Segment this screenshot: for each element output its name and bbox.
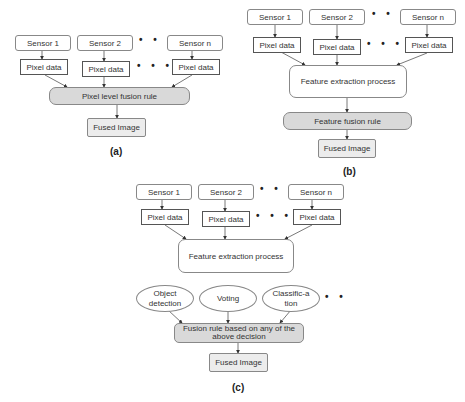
process-label: Feature extraction process	[301, 77, 396, 86]
sensor-label: Sensor 2	[210, 188, 242, 197]
ellipsis-dots: • • •	[137, 60, 173, 71]
pixel-level-fusion-rule-box: Pixel level fusion rule	[49, 87, 190, 105]
feature-fusion-rule-box: Feature fusion rule	[283, 112, 412, 130]
sensor-2-box: Sensor 2	[309, 9, 365, 25]
sensor-2-box: Sensor 2	[198, 184, 254, 200]
sensor-label: Sensor 1	[259, 13, 291, 22]
pixel-data-2-box: Pixel data	[313, 39, 361, 55]
sensor-label: Sensor 1	[27, 39, 59, 48]
pixel-data-1-box: Pixel data	[253, 37, 301, 53]
fusion-rule-label: Fusion rule based on any of the above de…	[179, 325, 299, 342]
ellipsis-dots: • • •	[256, 210, 292, 221]
pixel-data-n-box: Pixel data	[293, 209, 341, 225]
caption-c: (c)	[232, 382, 244, 393]
pixel-data-2-box: Pixel data	[202, 211, 250, 227]
fused-image-box: Fused Image	[87, 118, 146, 137]
ellipsis-dots: • • •	[367, 38, 403, 49]
pixel-data-label: Pixel data	[178, 63, 213, 72]
pixel-data-2-box: Pixel data	[82, 61, 130, 77]
pixel-data-label: Pixel data	[208, 215, 243, 224]
ellipsis-dots: • •	[325, 291, 347, 302]
sensor-n-box: Sensor n	[288, 184, 344, 200]
sensor-label: Sensor n	[179, 39, 211, 48]
pixel-data-n-box: Pixel data	[172, 59, 220, 75]
sensor-label: Sensor n	[300, 188, 332, 197]
fused-image-box: Fused Image	[209, 353, 268, 372]
sensor-1-box: Sensor 1	[15, 35, 71, 51]
sensor-label: Sensor 2	[89, 39, 121, 48]
object-detection-ellipse: Object detection	[136, 285, 194, 312]
fusion-rule-label: Feature fusion rule	[314, 117, 381, 126]
pixel-data-label: Pixel data	[319, 43, 354, 52]
decision-label: Object detection	[145, 289, 185, 307]
fused-image-label: Fused Image	[215, 358, 262, 367]
classification-ellipse: Classific-ation	[262, 285, 320, 312]
caption-a: (a)	[110, 146, 122, 157]
sensor-label: Sensor 2	[321, 13, 353, 22]
process-label: Feature extraction process	[189, 252, 284, 261]
decision-label: Voting	[217, 294, 239, 303]
fusion-rule-label: Pixel level fusion rule	[82, 92, 157, 101]
pixel-data-label: Pixel data	[299, 213, 334, 222]
caption-b: (b)	[343, 166, 356, 177]
sensor-1-box: Sensor 1	[247, 9, 303, 25]
feature-extraction-process-box: Feature extraction process	[178, 239, 294, 273]
sensor-label: Sensor 1	[148, 188, 180, 197]
decision-fusion-rule-box: Fusion rule based on any of the above de…	[174, 323, 304, 343]
pixel-data-label: Pixel data	[411, 41, 446, 50]
fused-image-box: Fused Image	[318, 139, 376, 158]
decision-label: Classific-ation	[272, 289, 310, 307]
fused-image-label: Fused Image	[93, 123, 140, 132]
sensor-n-box: Sensor n	[167, 35, 223, 51]
pixel-data-label: Pixel data	[147, 213, 182, 222]
feature-extraction-process-box: Feature extraction process	[289, 65, 407, 98]
voting-ellipse: Voting	[199, 285, 257, 312]
sensor-label: Sensor n	[412, 13, 444, 22]
pixel-data-label: Pixel data	[259, 41, 294, 50]
sensor-2-box: Sensor 2	[77, 35, 133, 51]
pixel-data-n-box: Pixel data	[405, 37, 453, 53]
sensor-1-box: Sensor 1	[136, 184, 192, 200]
sensor-n-box: Sensor n	[400, 9, 456, 25]
fused-image-label: Fused Image	[324, 144, 371, 153]
pixel-data-label: Pixel data	[26, 63, 61, 72]
pixel-data-label: Pixel data	[88, 65, 123, 74]
pixel-data-1-box: Pixel data	[20, 59, 68, 75]
pixel-data-1-box: Pixel data	[141, 209, 189, 225]
